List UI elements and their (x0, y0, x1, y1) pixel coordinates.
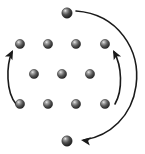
arrow-right-inner-head (109, 48, 121, 60)
sphere-r3c3 (71, 99, 80, 108)
arrow-left-head (5, 48, 17, 60)
arrow-left-icon (5, 48, 17, 104)
sphere-r1c2 (43, 39, 52, 48)
arrow-right-inner-shaft (114, 52, 121, 104)
sphere-r3c1 (15, 99, 24, 108)
arrow-outer-sweep-icon (76, 11, 137, 145)
diagram-canvas (0, 0, 145, 154)
arrow-right-inner-icon (109, 48, 121, 104)
arrow-outer-sweep-head (80, 136, 91, 146)
sphere-r2c3 (85, 69, 94, 78)
sphere-r3c4 (100, 99, 109, 108)
sphere-top-isolated (62, 8, 72, 18)
arrows-layer (5, 11, 137, 145)
spheres-layer (15, 8, 109, 146)
lattice-arrow-diagram (0, 0, 145, 154)
arrow-outer-sweep-shaft (76, 11, 137, 140)
sphere-bottom-isolated (62, 136, 72, 146)
sphere-r1c3 (71, 39, 80, 48)
sphere-r1c1 (15, 39, 24, 48)
sphere-r2c2 (57, 69, 66, 78)
sphere-r1c4 (100, 39, 109, 48)
sphere-r2c1 (29, 69, 38, 78)
arrow-left-shaft (8, 52, 16, 104)
sphere-r3c2 (43, 99, 52, 108)
